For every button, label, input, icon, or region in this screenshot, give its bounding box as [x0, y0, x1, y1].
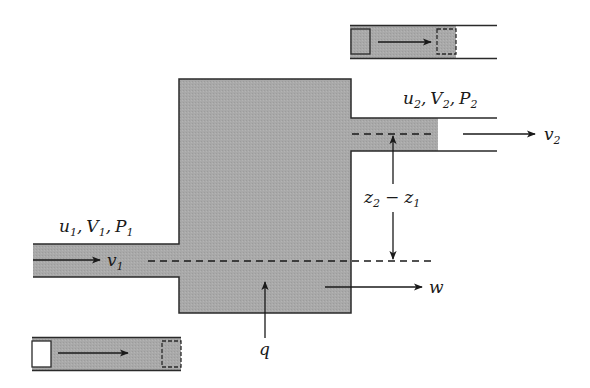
inlet-fluid-element-pipe	[32, 338, 181, 371]
elevation-label: z2−z1	[363, 187, 420, 210]
fluid-element-initial	[32, 341, 51, 367]
outlet-velocity-label: v2	[544, 124, 561, 147]
control-volume	[33, 79, 497, 313]
outlet-state-label: u2,V2,P2	[403, 88, 478, 111]
work-label: w	[429, 277, 444, 297]
control-volume-diagram: v1 u1,V1,P1 u2,V2,P2 v2 z2−z1 w q	[0, 0, 590, 388]
outlet-fluid-element-pipe	[350, 26, 497, 59]
fluid-element-initial	[351, 29, 370, 54]
inlet-state-label: u1,V1,P1	[59, 216, 134, 239]
heat-label: q	[259, 339, 270, 359]
